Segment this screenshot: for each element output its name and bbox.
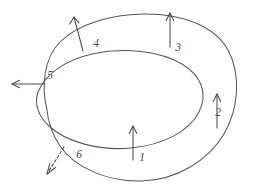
vector-label-5: 5	[47, 70, 53, 82]
vector-label-4: 4	[93, 38, 99, 50]
moebius-strip-figure: 1 2 3 4 5 6	[0, 0, 253, 193]
vector-label-3: 3	[175, 42, 181, 54]
band-inner-loop	[36, 51, 203, 149]
normal-vector-4	[70, 17, 83, 51]
normal-vector-1	[129, 126, 137, 160]
vector-label-6: 6	[76, 149, 82, 161]
figure-canvas	[0, 0, 253, 193]
vector-6-arrowhead	[47, 164, 56, 174]
vector-label-1: 1	[139, 152, 145, 164]
normal-vector-3	[166, 13, 174, 47]
vector-label-2: 2	[215, 107, 221, 119]
inner-loop-curve	[36, 51, 203, 149]
vector-6-shaft	[47, 147, 64, 174]
normal-vector-6	[47, 147, 64, 174]
